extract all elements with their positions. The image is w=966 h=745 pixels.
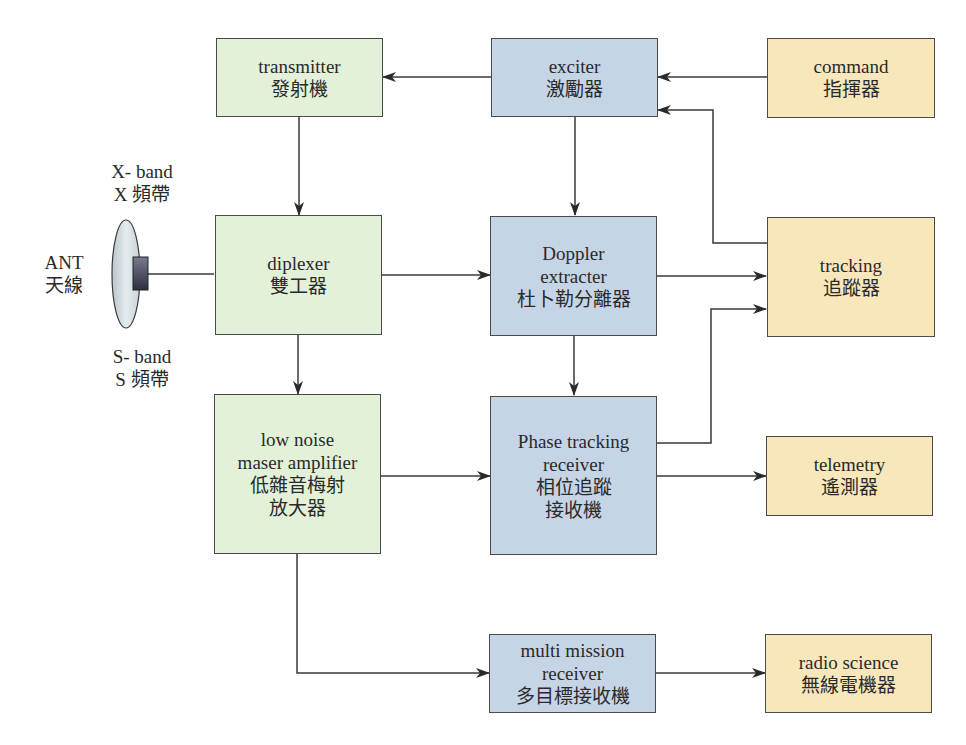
radio-science-zh: 無線電機器 — [801, 674, 896, 697]
diplexer-en: diplexer — [267, 252, 329, 275]
doppler-en1: Doppler — [542, 242, 604, 265]
tracking-zh: 追蹤器 — [823, 277, 880, 300]
mmr-en2: receiver — [542, 662, 603, 685]
tracking-block: tracking 追蹤器 — [767, 217, 935, 337]
tracking-en: tracking — [820, 254, 882, 277]
phase-tracking-receiver-block: Phase tracking receiver 相位追蹤 接收機 — [490, 396, 657, 555]
transmitter-block: transmitter 發射機 — [216, 38, 383, 117]
s-band-label: S- band S 頻帶 — [92, 345, 192, 391]
lna-zh2: 放大器 — [269, 497, 326, 520]
command-en: command — [814, 55, 889, 78]
x-band-en: X- band — [92, 160, 192, 183]
antenna-zh: 天線 — [36, 274, 92, 297]
mmr-en1: multi mission — [521, 639, 625, 662]
exciter-zh: 激勵器 — [546, 78, 603, 101]
lna-block: low noise maser amplifier 低雜音梅射 放大器 — [214, 394, 381, 554]
telemetry-block: telemetry 遙測器 — [766, 436, 933, 516]
ptr-zh1: 相位追蹤 — [536, 476, 612, 499]
multi-mission-receiver-block: multi mission receiver 多目標接收機 — [489, 634, 656, 713]
antenna-label: ANT 天線 — [36, 251, 92, 297]
ptr-en2: receiver — [543, 453, 604, 476]
exciter-en: exciter — [549, 55, 601, 78]
antenna-dish-icon — [112, 220, 148, 328]
diplexer-block: diplexer 雙工器 — [215, 215, 382, 335]
lna-en1: low noise — [261, 428, 334, 451]
radio-science-en: radio science — [799, 651, 899, 674]
doppler-zh: 杜卜勒分離器 — [517, 288, 631, 311]
diplexer-zh: 雙工器 — [270, 275, 327, 298]
command-zh: 指揮器 — [823, 78, 880, 101]
exciter-block: exciter 激勵器 — [491, 38, 658, 117]
s-band-en: S- band — [92, 345, 192, 368]
command-block: command 指揮器 — [767, 38, 935, 118]
ptr-zh2: 接收機 — [545, 499, 602, 522]
doppler-extracter-block: Doppler extracter 杜卜勒分離器 — [490, 216, 657, 336]
x-band-zh: X 頻帶 — [92, 183, 192, 206]
x-band-label: X- band X 頻帶 — [92, 160, 192, 206]
mmr-zh: 多目標接收機 — [516, 685, 630, 708]
lna-en2: maser amplifier — [238, 451, 358, 474]
doppler-en2: extracter — [540, 265, 606, 288]
telemetry-zh: 遙測器 — [821, 476, 878, 499]
ptr-en1: Phase tracking — [518, 430, 629, 453]
radio-science-block: radio science 無線電機器 — [765, 634, 932, 713]
transmitter-en: transmitter — [258, 55, 340, 78]
telemetry-en: telemetry — [814, 453, 886, 476]
antenna-en: ANT — [36, 251, 92, 274]
transmitter-zh: 發射機 — [271, 78, 328, 101]
lna-zh1: 低雜音梅射 — [250, 474, 345, 497]
s-band-zh: S 頻帶 — [92, 368, 192, 391]
